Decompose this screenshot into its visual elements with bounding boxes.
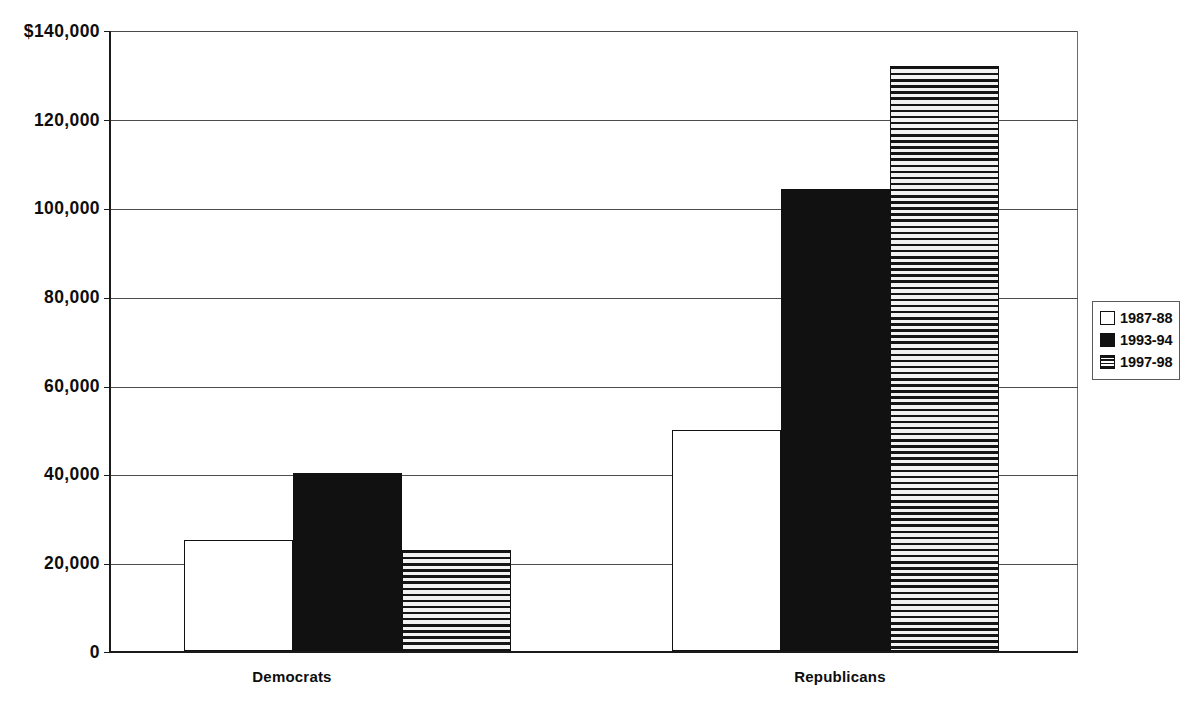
y-axis-tick-label: 60,000: [44, 376, 100, 397]
bar-republicans-1987-88: [672, 430, 781, 651]
bar-chart: $140,000 120,000 100,000 80,000 60,000 4…: [0, 0, 1199, 711]
x-axis-category-label-republicans: Republicans: [779, 668, 901, 685]
bar-democrats-1997-98: [402, 550, 511, 651]
plot-border-top: [111, 31, 1078, 32]
bar-democrats-1993-94: [293, 473, 402, 651]
y-axis-tick: [104, 475, 111, 476]
y-axis-tick-label: 80,000: [44, 287, 100, 308]
y-axis-tick: [104, 298, 111, 299]
y-axis-labels: $140,000 120,000 100,000 80,000 60,000 4…: [0, 31, 100, 653]
legend-item-label: 1993-94: [1120, 332, 1173, 348]
y-axis-tick: [104, 120, 111, 121]
legend-item: 1993-94: [1100, 329, 1173, 351]
x-axis-category-label-democrats: Democrats: [237, 668, 347, 685]
y-axis-tick-label: 120,000: [34, 110, 100, 131]
plot-area: [109, 31, 1078, 653]
y-axis-tick: [104, 387, 111, 388]
y-axis-tick: [104, 564, 111, 565]
bar-republicans-1997-98: [890, 66, 999, 651]
y-axis-tick: [104, 209, 111, 210]
plot-border-right: [1077, 31, 1078, 651]
legend-item-label: 1987-88: [1120, 310, 1173, 326]
legend-item-label: 1997-98: [1120, 354, 1173, 370]
y-axis-tick-label: 100,000: [34, 198, 100, 219]
legend: 1987-88 1993-94 1997-98: [1092, 301, 1180, 380]
y-axis-tick-label: 0: [90, 642, 100, 663]
y-axis-tick-label: 20,000: [44, 553, 100, 574]
y-axis-tick: [104, 652, 111, 653]
swatch-white-empty-icon: [1100, 311, 1115, 325]
y-axis-tick-label: 40,000: [44, 464, 100, 485]
y-axis-tick: [104, 31, 111, 32]
bar-republicans-1993-94: [781, 189, 890, 651]
legend-item: 1997-98: [1100, 351, 1173, 373]
y-axis-tick-label: $140,000: [24, 21, 100, 42]
bar-democrats-1987-88: [184, 540, 293, 651]
legend-item: 1987-88: [1100, 307, 1173, 329]
swatch-horizontal-stripes-icon: [1100, 355, 1115, 369]
swatch-black-solid-icon: [1100, 333, 1115, 347]
